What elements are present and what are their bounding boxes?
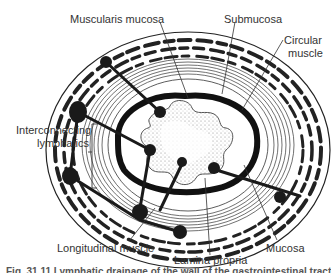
gi-wall-cross-section-diagram: Muscularis mucosa Submucosa Circular mus…	[0, 0, 332, 273]
label-circular-muscle-line1: Circular	[284, 34, 322, 46]
label-submucosa: Submucosa	[224, 13, 282, 25]
label-longitudinal-muscle: Longitudinal muscle	[57, 242, 154, 254]
label-interconnecting-line2: lymphatics	[37, 137, 89, 149]
label-circular-muscle-line2: muscle	[288, 47, 323, 59]
label-lamina-propria: Lamina propria	[174, 254, 247, 266]
label-muscularis-mucosa: Muscularis mucosa	[70, 13, 164, 25]
label-interconnecting-line1: Interconnecting	[16, 124, 91, 136]
label-mucosa: Mucosa	[266, 242, 305, 254]
figure-caption: Fig. 31.11 Lymphatic drainage of the wal…	[6, 266, 331, 273]
